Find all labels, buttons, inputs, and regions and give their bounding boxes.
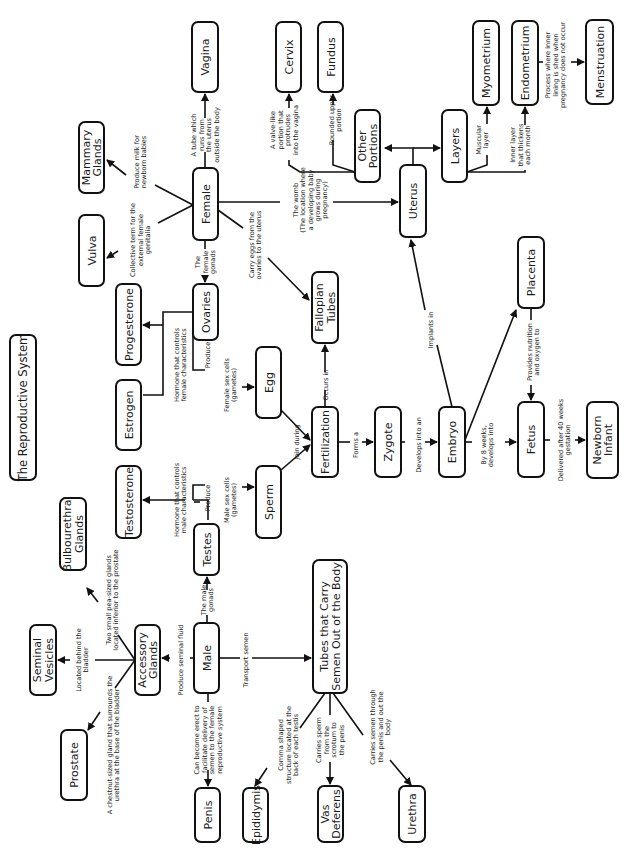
node-progesterone: Progesterone [116,284,141,365]
node-embryo: Embryo [439,407,465,477]
connector-arrow [268,258,309,300]
link-label-myometrium: Muscularlayer [475,125,490,155]
node-label: Layers [449,128,462,165]
connector-arrow [390,760,411,785]
link-label-fallopian: Carry eggs from theovaries to the uterus [248,210,263,279]
node-vagina: Vagina [192,22,218,92]
node-label: Menstruation [594,26,607,99]
link-label-urethra: Carries semen throughthe penis and out t… [369,689,392,765]
link-label-delivered: Delivered after 40 weeksgestation [557,398,572,481]
node-fertilization: Fertilization [312,407,338,477]
node-egg: Egg [256,347,281,418]
link-label-ovaries: Thefemalegonads [194,249,217,274]
node-label: Sperm [263,484,276,520]
link-label-hormone-f: Hormone that controlsfemale characterist… [173,327,188,402]
node-fetus: Fetus [518,402,544,477]
node-prostate: Prostate [61,730,87,800]
node-endometrium: Endometrium [512,21,538,105]
node-sperm: Sperm [256,466,281,538]
link-label-vulva: Collective term for theexternal femalege… [129,203,152,277]
node-zygote: Zygote [375,407,401,477]
connector-arrow [465,310,516,440]
node-estrogen: Estrogen [116,380,141,450]
node-cervix: Cervix [276,22,301,92]
node-label: The Reproductive System [16,334,30,482]
link-label-menstruation: Process where innerlining is shed whenpr… [544,22,567,108]
connector-line [467,170,525,172]
connector-arrow [385,148,413,165]
link-label-transport: Transport semen [242,632,250,688]
node-newborn: NewbornInfant [587,402,618,478]
node-label: Egg [263,372,276,393]
node-label: Fundus [325,37,338,77]
connector-line [467,155,487,172]
link-label-bulbourethral: Two small pea-sized glandslocated inferi… [105,549,120,650]
node-epididymis: Epididymis [243,785,268,845]
node-label: Fertilization [319,410,332,474]
link-label-seminal: Located behind thebladder [75,628,90,692]
link-label-produce-f: Produce [204,342,212,369]
node-title: The Reproductive System [10,334,36,482]
link-label-forms: Forms a [352,432,360,458]
node-label: Testes [201,532,214,567]
node-female: Female [193,168,218,240]
node-label: SeminalVesicles [31,638,56,682]
node-myometrium: Myometrium [473,21,499,105]
link-label-nutrition: Provides nutritionand oxygen to [526,323,541,381]
node-male: Male [194,623,219,693]
node-fundus: Fundus [318,22,343,92]
node-testes: Testes [194,524,219,575]
link-label-uterus: The womb(The location wherea developing … [292,167,330,232]
link-label-seminal-fluid: Produce seminal fluid [177,625,185,696]
link-label-cervix: A valve-likeportion thatprotrudesinto th… [269,105,299,155]
connector-arrow [107,251,118,258]
connector-arrow [107,160,126,175]
connector-line [118,635,135,660]
connector-arrow [87,588,98,602]
node-label: Embryo [446,421,459,464]
node-testosterone: Testosterone [116,466,141,538]
node-label: Estrogen [123,391,136,440]
link-label-implants: Implants in [427,312,435,349]
link-label-produce-m: Produce [204,485,212,512]
node-label: Zygote [382,422,395,461]
node-ovaries: Ovaries [193,284,218,340]
node-menstruation: Menstruation [586,20,613,104]
connector-arrow [411,240,425,310]
node-label: Myometrium [480,28,493,98]
node-label: Urethra [406,793,419,835]
node-label: Prostate [68,742,81,788]
link-label-mammary: Produce milk fornewborn babies [133,135,148,189]
connector-arrow [88,712,100,730]
connector-line [155,185,193,205]
link-label-join: Join during [293,424,301,460]
link-label-endometrium: Inner layerthat thickenseach month [509,123,532,167]
concept-map: The Reproductive SystemVaginaMammaryGlan… [0,0,633,858]
node-label: Vulva [86,235,99,265]
connector-arrow [255,768,267,786]
node-label: Fetus [525,424,538,454]
link-label-male-cells: Male sex cells(gametes) [223,477,238,523]
node-vas-deferens: VasDeferens [318,786,343,842]
node-uterus: Uterus [400,165,426,237]
link-label-hormone-m: Hormone that controlsmale characteristic… [173,462,188,537]
node-accessory: AccessoryGlands [135,625,160,695]
link-label-epididymis: Comma shapedstructure located at theback… [277,706,300,784]
node-label: Penis [202,800,215,829]
link-label-female-cells: Female sex cells(gametes) [223,357,238,412]
node-layers: Layers [442,110,467,182]
node-placenta: Placenta [518,237,544,308]
node-label: Male [201,645,214,671]
link-label-fundus: Rounded upperportion [328,94,343,145]
link-label-male-gonads: The malegonads [200,585,215,617]
node-penis: Penis [195,788,220,842]
node-label: Cervix [283,39,296,75]
connector-line [333,140,355,172]
node-label: Progesterone [123,288,136,361]
node-label: Endometrium [519,26,532,101]
link-label-8weeks: By 8 weeks,develops into [480,423,495,467]
node-label: Female [200,184,213,224]
node-urethra: Urethra [399,786,425,842]
node-vulva: Vulva [79,215,104,286]
connector-line [218,210,243,228]
